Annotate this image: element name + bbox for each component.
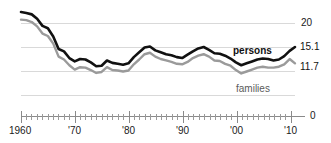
- x-tick-label-2010: '10: [284, 126, 297, 136]
- persons-series-label: persons: [233, 46, 272, 56]
- x-tick-label-1970: '70: [68, 126, 81, 136]
- poverty-rate-chart: 20 15.1 11.7 0 persons families 1960 '70…: [0, 0, 331, 143]
- y-tick-label-0: 0: [310, 111, 316, 121]
- families-series-label: families: [236, 84, 270, 94]
- x-tick-label-1980: '80: [122, 126, 135, 136]
- x-tick-label-1990: '90: [176, 126, 189, 136]
- families-end-value-label: 11.7: [300, 62, 319, 72]
- x-axis-group: [21, 111, 305, 123]
- persons-end-value-label: 15.1: [300, 42, 319, 52]
- x-tick-label-1960: 1960: [9, 126, 31, 136]
- series-group: [21, 12, 295, 73]
- y-tick-label-20: 20: [301, 18, 312, 28]
- x-tick-label-2000: '00: [230, 126, 243, 136]
- chart-plot-area: [0, 0, 331, 143]
